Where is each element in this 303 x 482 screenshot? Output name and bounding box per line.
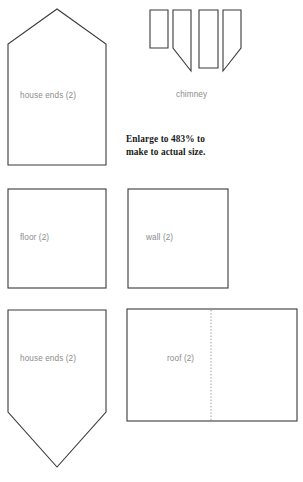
enlarge-note-line-1: Enlarge to 483% to	[126, 133, 205, 146]
label-house-ends-bottom: house ends (2)	[20, 355, 76, 363]
shape-chimney-strip-2	[173, 10, 191, 71]
label-roof: roof (2)	[167, 355, 194, 363]
label-wall: wall (2)	[146, 234, 173, 242]
label-house-ends-top: house ends (2)	[20, 92, 76, 100]
shape-chimney-strip-3	[199, 10, 218, 68]
pattern-template-page: house ends (2) chimney floor (2) wall (2…	[0, 0, 303, 482]
shape-chimney-strip-1	[150, 10, 168, 48]
shape-wall	[128, 189, 228, 288]
shape-chimney-strip-4	[223, 10, 241, 71]
enlarge-note-line-2: make to actual size.	[126, 146, 205, 159]
label-chimney: chimney	[176, 91, 207, 99]
shape-house-ends-bottom	[8, 310, 106, 467]
shape-house-ends-top	[8, 9, 106, 165]
label-floor: floor (2)	[20, 234, 49, 242]
shape-roof	[127, 309, 297, 421]
